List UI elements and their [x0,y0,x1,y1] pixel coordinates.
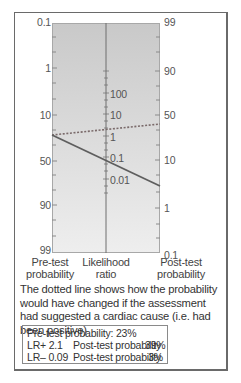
lr-positive-row: LR+ 2.1 Post-test probability 39% [27,339,163,351]
likelihood-axis-title: Likelihood ratio [72,256,140,280]
posttest-value: 39% [145,339,163,351]
results-box: Pre-test probability: 23% LR+ 2.1 Post-t… [22,325,168,364]
lr-negative-row: LR– 0.09 Post-test probability 3% [27,351,163,363]
lr-value: LR+ 2.1 [27,339,73,351]
posttest-label: Post-test probability [73,339,145,351]
posttest-axis-title: Post-test probability [146,256,216,280]
posttest-value: 3% [145,351,163,363]
posttest-label: Post-test probability [73,351,145,363]
pretest-probability-row: Pre-test probability: 23% [27,327,163,339]
lr-value: LR– 0.09 [27,351,73,363]
